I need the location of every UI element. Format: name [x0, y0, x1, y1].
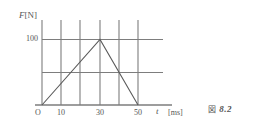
xtick-label-50: 50	[131, 108, 145, 117]
grid-vertical-lines	[42, 20, 138, 105]
figure-page: F[N] 100 O 10 30 50 t [ms] 図 8.2	[0, 0, 260, 135]
figure-number: 8.2	[219, 104, 232, 114]
figure-caption: 図 8.2	[208, 103, 232, 114]
xtick-label-30: 30	[93, 108, 107, 117]
x-axis-unit: [ms]	[168, 108, 183, 117]
y-axis-label: F[N]	[19, 10, 37, 20]
ytick-label-100: 100	[20, 34, 38, 43]
xtick-label-10: 10	[54, 108, 68, 117]
figure-marker-glyph: 図	[208, 105, 217, 114]
xtick-label-origin: O	[32, 108, 44, 117]
x-axis-label: t	[156, 106, 159, 116]
